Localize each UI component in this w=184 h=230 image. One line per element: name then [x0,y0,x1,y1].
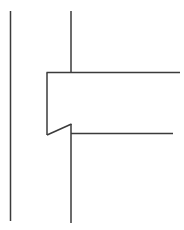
line-drawing-figure [0,0,184,230]
canvas-background [0,0,184,230]
drawing-canvas [0,0,184,230]
